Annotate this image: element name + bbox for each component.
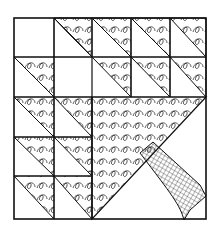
hst-triangle	[131, 57, 170, 97]
hst-triangle	[54, 137, 92, 176]
hst-triangle	[131, 18, 170, 57]
quilt-block-drawing	[0, 0, 216, 233]
hst-triangle	[14, 137, 54, 176]
hst-triangle	[14, 97, 54, 137]
hst-triangle	[170, 57, 206, 97]
crosshatched-trunk	[140, 142, 206, 220]
hst-triangle	[54, 97, 92, 137]
hst-triangle	[54, 176, 92, 219]
hst-triangle	[14, 176, 54, 219]
hst-triangle	[170, 18, 206, 57]
hst-triangle	[92, 57, 131, 97]
hst-triangle	[92, 18, 131, 57]
hst-triangle	[14, 57, 54, 97]
hst-triangle	[54, 18, 92, 57]
